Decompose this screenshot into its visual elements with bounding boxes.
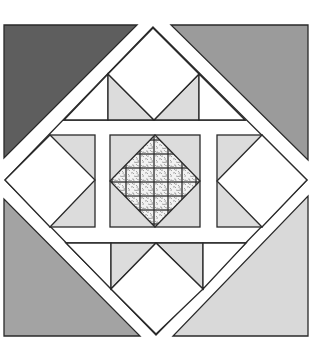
quilt-block — [0, 0, 324, 340]
middle-band — [5, 135, 307, 227]
